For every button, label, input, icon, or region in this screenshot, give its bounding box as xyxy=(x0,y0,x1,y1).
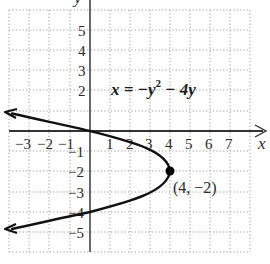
svg-text:2: 2 xyxy=(78,83,86,99)
y-axis-label: y xyxy=(72,0,82,7)
x-axis-label: x xyxy=(257,134,266,153)
svg-text:4: 4 xyxy=(165,136,173,152)
equation-label: x = −y2 − 4y xyxy=(110,77,196,99)
y-tick-labels: 5 4 3 2 −1 −2 −3 −4 −5 xyxy=(68,23,86,241)
parabola-graph: y 5 4 3 2 −1 −2 −3 −4 −5 −3 −2 −1 1 2 3 … xyxy=(0,0,270,264)
svg-text:−2: −2 xyxy=(68,164,84,180)
svg-text:−1: −1 xyxy=(58,136,74,152)
svg-text:−3: −3 xyxy=(15,136,31,152)
svg-text:5: 5 xyxy=(185,136,193,152)
svg-text:−2: −2 xyxy=(37,136,53,152)
svg-text:−5: −5 xyxy=(68,225,84,241)
svg-text:7: 7 xyxy=(225,136,233,152)
svg-text:6: 6 xyxy=(205,136,213,152)
svg-text:4: 4 xyxy=(78,43,86,59)
svg-text:−3: −3 xyxy=(68,185,84,201)
vertex-point xyxy=(166,167,175,176)
vertex-label: (4, −2) xyxy=(173,179,217,197)
svg-text:3: 3 xyxy=(78,63,86,79)
svg-text:1: 1 xyxy=(106,136,114,152)
x-tick-labels: −3 −2 −1 1 2 3 4 5 6 7 xyxy=(15,136,233,152)
svg-text:5: 5 xyxy=(78,23,86,39)
